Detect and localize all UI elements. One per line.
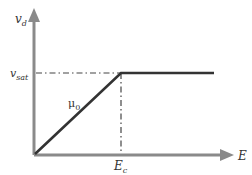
y-axis-label: vd [15,12,27,28]
y-axis-arrow-icon [28,8,40,22]
x-axis-arrow-icon [220,149,234,161]
velocity-field-diagram: vd vsat μ0 Ec E [0,0,252,175]
vsat-label: vsat [10,67,29,82]
x-axis-label: E [237,149,247,163]
ec-label: Ec [113,159,128,175]
velocity-curve [35,73,214,154]
slope-label: μ0 [68,97,80,112]
